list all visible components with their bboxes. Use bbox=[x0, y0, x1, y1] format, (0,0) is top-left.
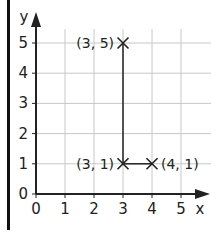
x-axis-arrow-icon bbox=[195, 189, 210, 199]
x-tick-label: 4 bbox=[147, 200, 157, 218]
y-tick-label: 5 bbox=[18, 34, 28, 52]
y-tick-label: 3 bbox=[18, 94, 28, 112]
y-axis-arrow-icon bbox=[31, 12, 41, 27]
x-tick-label: 2 bbox=[89, 200, 99, 218]
x-tick-label: 3 bbox=[118, 200, 128, 218]
x-axis-label: x bbox=[196, 200, 205, 218]
x-tick-label: 1 bbox=[60, 200, 70, 218]
y-tick-label: 4 bbox=[18, 64, 28, 82]
point-label: (4, 1) bbox=[161, 156, 199, 172]
y-tick-label: 1 bbox=[18, 155, 28, 173]
point-label: (3, 5) bbox=[76, 35, 114, 51]
x-tick-label: 0 bbox=[31, 200, 41, 218]
x-tick-label: 5 bbox=[176, 200, 186, 218]
y-axis-label: y bbox=[20, 8, 29, 26]
y-tick-label: 2 bbox=[18, 125, 28, 143]
y-tick-label: 0 bbox=[18, 185, 28, 203]
coordinate-chart: 012345012345xy(3, 5)(3, 1)(4, 1) bbox=[0, 0, 223, 237]
point-label: (3, 1) bbox=[76, 156, 114, 172]
